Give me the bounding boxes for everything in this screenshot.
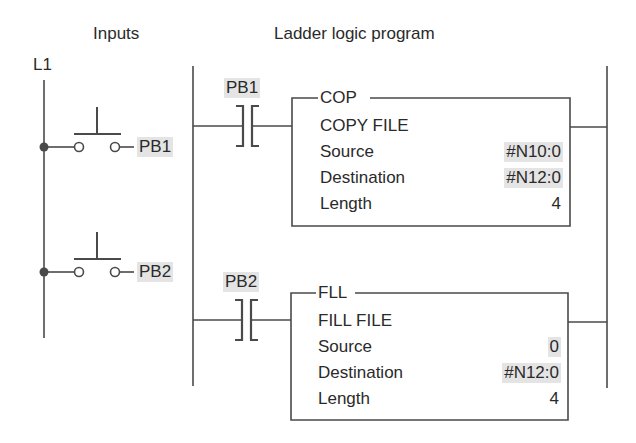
fll-mnemonic: FLL: [316, 283, 349, 303]
fll-length-value: 4: [550, 389, 559, 409]
fll-source-value: 0: [548, 337, 561, 357]
cop-title: COPY FILE: [320, 116, 409, 136]
program-header: Ladder logic program: [274, 24, 435, 44]
cop-length-value: 4: [552, 194, 561, 214]
fll-length-label: Length: [318, 389, 370, 409]
input-tag-pb1: PB1: [137, 137, 173, 157]
cop-source-value: #N10:0: [504, 142, 563, 162]
cop-length-label: Length: [320, 194, 372, 214]
junction-dot: [40, 143, 49, 152]
cop-destination-label: Destination: [320, 168, 405, 188]
contact-tag-pb2: PB2: [223, 272, 259, 292]
fll-destination-label: Destination: [318, 363, 403, 383]
inputs-header: Inputs: [93, 24, 139, 44]
fll-title: FILL FILE: [318, 311, 392, 331]
fll-source-label: Source: [318, 337, 372, 357]
cop-mnemonic: COP: [318, 88, 359, 108]
cop-destination-value: #N12:0: [504, 168, 563, 188]
contact-tag-pb1: PB1: [224, 78, 260, 98]
input-tag-pb2: PB2: [137, 262, 173, 282]
fll-destination-value: #N12:0: [502, 363, 561, 383]
power-line-label: L1: [33, 55, 52, 75]
cop-source-label: Source: [320, 142, 374, 162]
junction-dot: [40, 268, 49, 277]
